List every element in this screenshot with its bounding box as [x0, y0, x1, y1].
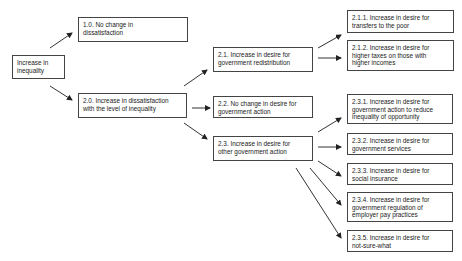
- node-2-3-5: 2.3.5. Increase in desire for not-sure-w…: [347, 230, 453, 252]
- node-2-3-4: 2.3.4. Increase in desire for government…: [347, 192, 453, 222]
- node-root-increase-in-inequality: Increase in inequality: [12, 55, 65, 79]
- arrow-root-to-1-0: [50, 33, 72, 48]
- arrow-2-0-to-2-1: [184, 70, 207, 86]
- arrow-2-0-to-2-3: [184, 123, 207, 139]
- node-2-1: 2.1. Increase in desire for government r…: [213, 47, 313, 72]
- arrow-root-to-2-0: [50, 86, 72, 100]
- arrow-2-1-to-2-1-1: [318, 35, 341, 48]
- node-2-3: 2.3. Increase in desire for other govern…: [213, 136, 313, 161]
- node-2-1-2: 2.1.2. Increase in desire for higher tax…: [347, 40, 454, 71]
- node-2-3-1: 2.3.1. Increase in desire for government…: [347, 94, 453, 124]
- node-2-3-2: 2.3.2. Increase in desire for government…: [347, 133, 453, 155]
- node-1-0: 1.0. No change in dissatisfaction: [78, 17, 188, 42]
- node-2-3-3: 2.3.3. Increase in desire for social ins…: [347, 163, 453, 185]
- node-2-1-1: 2.1.1. Increase in desire for transfers …: [347, 10, 454, 33]
- inequality-response-diagram: Increase in inequality 1.0. No change in…: [0, 0, 462, 261]
- node-2-2: 2.2. No change in desire for government …: [213, 96, 313, 118]
- node-2-0: 2.0. Increase in dissatisfaction with th…: [78, 93, 187, 118]
- arrow-2-3-to-2-3-3: [318, 161, 341, 176]
- arrow-2-3-to-2-3-1: [318, 118, 341, 132]
